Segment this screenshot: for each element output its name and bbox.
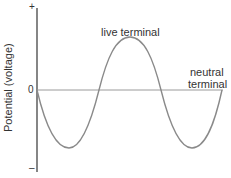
ac-voltage-diagram: + 0 – Potential (voltage) live terminal … (0, 0, 231, 178)
live-voltage-curve (37, 37, 222, 148)
live-terminal-label: live terminal (101, 26, 160, 38)
y-axis-label: Potential (voltage) (2, 43, 14, 132)
neutral-terminal-label-line1: neutral (190, 66, 224, 78)
y-tick-positive: + (29, 2, 35, 12)
y-tick-zero: 0 (28, 85, 34, 95)
neutral-terminal-label-line2: terminal (188, 78, 227, 90)
y-tick-negative: – (29, 163, 35, 173)
